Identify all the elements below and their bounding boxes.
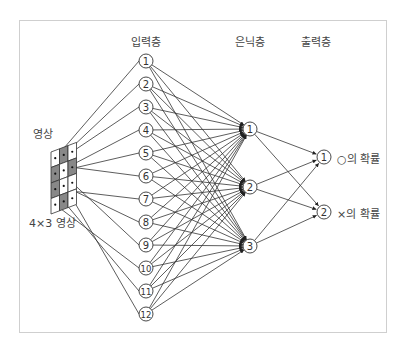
image-title: 영상 xyxy=(33,125,53,141)
svg-text:10: 10 xyxy=(141,264,152,274)
input-node: 2 xyxy=(139,77,153,91)
input-node: 3 xyxy=(139,100,153,114)
svg-text:9: 9 xyxy=(143,240,149,251)
hidden-node: 1 xyxy=(243,122,257,136)
input-node: 12 xyxy=(139,307,153,321)
svg-text:2: 2 xyxy=(321,207,327,218)
figure-caption xyxy=(120,346,290,354)
output-node: 2 xyxy=(317,205,331,219)
output-label-x: ×의 확률 xyxy=(337,205,380,221)
input-node: 8 xyxy=(139,215,153,229)
svg-text:12: 12 xyxy=(141,310,152,320)
svg-text:4: 4 xyxy=(143,125,149,136)
hidden-node: 3 xyxy=(243,239,257,253)
svg-text:8: 8 xyxy=(143,217,149,228)
input-node: 4 xyxy=(139,123,153,137)
output-label-o: ○의 확률 xyxy=(337,150,380,166)
input-node: 5 xyxy=(139,146,153,160)
input-node: 7 xyxy=(139,192,153,206)
svg-text:2: 2 xyxy=(247,182,253,193)
svg-text:7: 7 xyxy=(143,194,149,205)
input-node: 6 xyxy=(139,169,153,183)
svg-text:1: 1 xyxy=(321,152,327,163)
hidden-layer-header: 은닉층 xyxy=(235,33,265,49)
input-node: 11 xyxy=(139,284,153,298)
4x3-image-grid xyxy=(51,142,77,214)
svg-text:1: 1 xyxy=(143,56,149,67)
input-layer-header: 입력층 xyxy=(131,33,161,49)
svg-text:6: 6 xyxy=(143,171,149,182)
image-caption: 4×3 영상 xyxy=(29,214,76,230)
svg-text:3: 3 xyxy=(143,102,149,113)
svg-text:3: 3 xyxy=(247,241,253,252)
output-node: 1 xyxy=(317,150,331,164)
hidden-node: 2 xyxy=(243,180,257,194)
input-node: 10 xyxy=(139,261,153,275)
svg-text:1: 1 xyxy=(247,124,253,135)
svg-text:2: 2 xyxy=(143,79,149,90)
svg-text:11: 11 xyxy=(141,287,152,297)
input-node: 9 xyxy=(139,238,153,252)
neural-network-diagram: 12345678910111212312 xyxy=(0,0,405,354)
output-layer-header: 출력층 xyxy=(301,33,331,49)
input-node: 1 xyxy=(139,54,153,68)
svg-text:5: 5 xyxy=(143,148,149,159)
